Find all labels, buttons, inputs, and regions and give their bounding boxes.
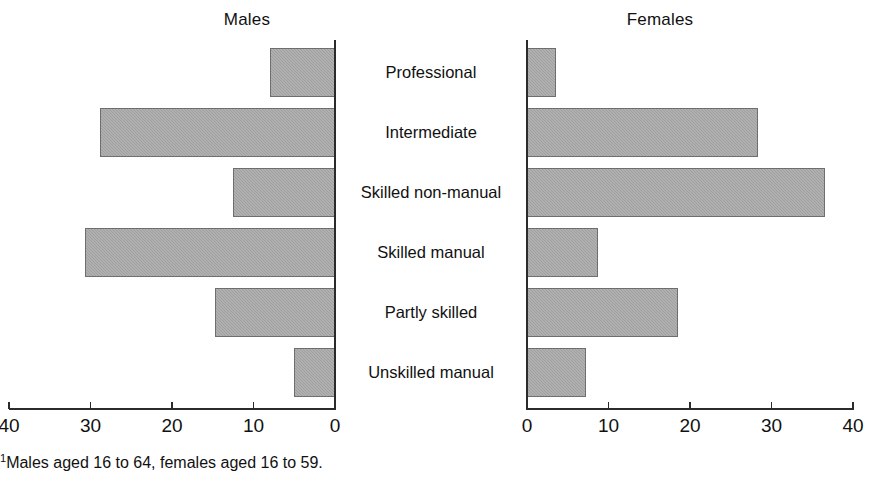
tick-mark	[8, 402, 10, 409]
males-panel-title: Males	[162, 10, 332, 30]
category-label-partly-skilled: Partly skilled	[336, 303, 526, 322]
tick-label-10: 10	[579, 415, 639, 437]
tick-label-30: 30	[61, 415, 121, 437]
females-zero-axis	[526, 40, 528, 408]
bar-males-skilled-non-manual	[233, 168, 335, 217]
bar-males-intermediate	[100, 108, 335, 157]
bar-males-partly-skilled	[215, 288, 335, 337]
bar-females-unskilled-manual	[527, 348, 586, 397]
bar-females-skilled-manual	[527, 228, 598, 277]
tick-mark	[253, 402, 255, 409]
males-plot-area	[9, 40, 335, 408]
tick-mark	[852, 402, 854, 409]
bidirectional-bar-chart: Males Females ProfessionalIntermediateSk…	[0, 0, 869, 481]
bar-females-skilled-non-manual	[527, 168, 825, 217]
bar-females-professional	[527, 48, 556, 97]
bar-males-professional	[270, 48, 335, 97]
bar-males-skilled-manual	[85, 228, 335, 277]
category-label-professional: Professional	[336, 63, 526, 82]
tick-mark	[608, 402, 610, 409]
footnote: 1Males aged 16 to 64, females aged 16 to…	[0, 452, 323, 472]
females-plot-area	[527, 40, 853, 408]
tick-label-20: 20	[142, 415, 202, 437]
category-label-unskilled-manual: Unskilled manual	[336, 363, 526, 382]
tick-label-10: 10	[224, 415, 284, 437]
tick-mark	[90, 402, 92, 409]
tick-mark	[689, 402, 691, 409]
bar-females-intermediate	[527, 108, 758, 157]
tick-label-0: 0	[305, 415, 365, 437]
category-label-intermediate: Intermediate	[336, 123, 526, 142]
bar-females-partly-skilled	[527, 288, 678, 337]
females-panel-title: Females	[575, 10, 745, 30]
males-zero-axis	[334, 40, 336, 408]
category-label-skilled-non-manual: Skilled non-manual	[336, 183, 526, 202]
tick-mark	[334, 402, 336, 409]
tick-label-30: 30	[742, 415, 802, 437]
tick-mark	[771, 402, 773, 409]
tick-mark	[526, 402, 528, 409]
bar-males-unskilled-manual	[294, 348, 335, 397]
tick-mark	[171, 402, 173, 409]
tick-label-40: 40	[823, 415, 869, 437]
footnote-text: Males aged 16 to 64, females aged 16 to …	[6, 454, 323, 471]
tick-label-20: 20	[660, 415, 720, 437]
tick-label-0: 0	[497, 415, 557, 437]
tick-label-40: 40	[0, 415, 39, 437]
category-label-skilled-manual: Skilled manual	[336, 243, 526, 262]
